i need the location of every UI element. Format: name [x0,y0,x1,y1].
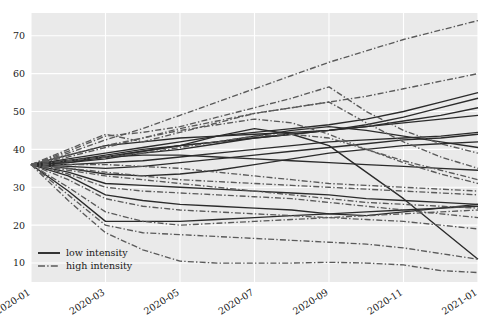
y-tick-label: 10 [13,257,25,268]
line-chart: 10203040506070 2020-012020-032020-052020… [0,0,494,324]
y-tick-label: 40 [13,144,25,155]
y-tick-label: 70 [13,30,25,41]
y-tick-label: 60 [13,68,25,79]
chart-canvas: 10203040506070 2020-012020-032020-052020… [0,0,494,324]
y-tick-label: 30 [13,182,25,193]
legend-label-high-intensity: high intensity [66,260,133,271]
y-tick-label: 50 [13,106,25,117]
y-tick-label: 20 [13,220,25,231]
legend-label-low-intensity: low intensity [66,247,128,258]
